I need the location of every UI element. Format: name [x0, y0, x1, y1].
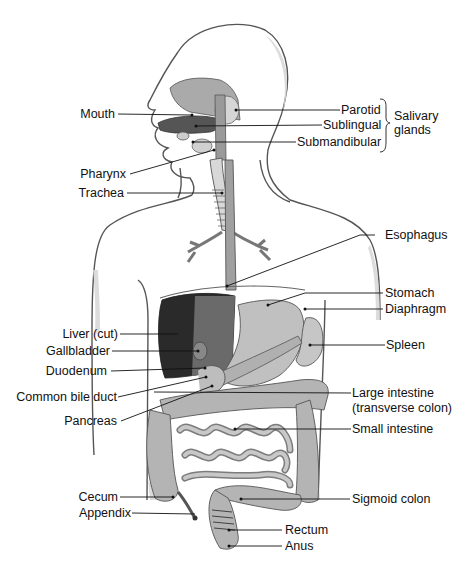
label-common-bile-duct: Common bile duct	[16, 390, 117, 404]
label-spleen: Spleen	[386, 338, 425, 352]
label-mouth: Mouth	[80, 107, 115, 121]
label-cecum: Cecum	[78, 490, 118, 504]
label-anus: Anus	[285, 539, 314, 553]
label-transverse-colon: (transverse colon)	[352, 401, 452, 415]
esophagus	[225, 160, 236, 290]
label-sigmoid-colon: Sigmoid colon	[352, 492, 431, 506]
label-esophagus: Esophagus	[385, 228, 448, 242]
label-salivary-glands: Salivary glands	[394, 109, 438, 137]
label-duodenum: Duodenum	[46, 364, 107, 378]
label-small-intestine: Small intestine	[352, 422, 433, 436]
label-stomach: Stomach	[385, 286, 434, 300]
label-appendix: Appendix	[79, 506, 131, 520]
label-pharynx: Pharynx	[80, 167, 126, 181]
label-diaphragm: Diaphragm	[385, 302, 446, 316]
digestive-system-diagram	[0, 0, 469, 564]
head-organs	[158, 78, 240, 160]
label-submandibular: Submandibular	[297, 135, 381, 149]
label-sublingual: Sublingual	[323, 118, 381, 132]
label-pancreas: Pancreas	[64, 414, 117, 428]
label-rectum: Rectum	[285, 523, 328, 537]
label-large-intestine: Large intestine	[352, 386, 434, 400]
label-liver: Liver (cut)	[62, 327, 118, 341]
salivary-brace	[380, 99, 390, 152]
label-salivary-line2: glands	[394, 123, 438, 137]
label-trachea: Trachea	[79, 186, 124, 200]
label-gallbladder: Gallbladder	[46, 344, 110, 358]
label-salivary-line1: Salivary	[394, 109, 438, 123]
label-parotid: Parotid	[341, 103, 381, 117]
